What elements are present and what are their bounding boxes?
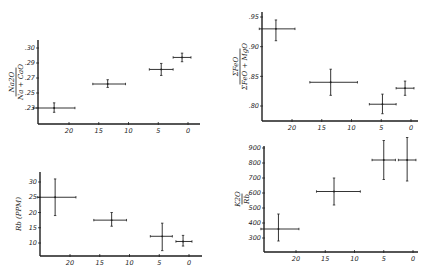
y-tick-label: 15 bbox=[29, 224, 37, 232]
data-point bbox=[259, 20, 295, 41]
y-tick-label: 20 bbox=[29, 209, 37, 217]
y-tick-label: .29 bbox=[25, 59, 35, 67]
x-tick-label: 0 bbox=[187, 259, 191, 267]
y-tick-label: .90 bbox=[249, 43, 259, 51]
chart-rb-ppm: 201510503025201510Rb (PPM) bbox=[15, 172, 202, 267]
data-point bbox=[94, 213, 127, 227]
svg-text:ΣFeO: ΣFeO bbox=[232, 57, 240, 78]
y-axis-label: Rb (PPM) bbox=[15, 197, 23, 232]
y-tick-label: 30 bbox=[29, 178, 37, 186]
data-point bbox=[93, 80, 126, 88]
svg-text:Rb (PPM): Rb (PPM) bbox=[15, 197, 23, 232]
y-tick-label: 700 bbox=[249, 174, 261, 182]
y-tick-label: 25 bbox=[29, 193, 37, 201]
svg-text:K2O: K2O bbox=[234, 191, 242, 208]
data-point bbox=[150, 223, 172, 250]
y-axis-label: Na2ONa + CaO bbox=[8, 64, 25, 101]
chart-feo-ratio: 20151050.95.90.85.80ΣFeOΣFeO + MgO bbox=[232, 12, 418, 132]
y-tick-label: 400 bbox=[249, 219, 261, 227]
data-point bbox=[176, 235, 192, 246]
x-tick-label: 10 bbox=[350, 255, 358, 263]
x-tick-label: 10 bbox=[125, 259, 133, 267]
data-point bbox=[33, 103, 75, 112]
chart-k2o-rb: 20151050900800700600500400300K2ORb bbox=[234, 138, 418, 264]
svg-text:Na + CaO: Na + CaO bbox=[17, 64, 25, 101]
x-tick-label: 0 bbox=[411, 255, 415, 263]
data-point bbox=[398, 138, 416, 182]
figure-four-panel: 20151050.30.29.27.25.23Na2ONa + CaO20151… bbox=[0, 0, 424, 272]
x-tick-label: 20 bbox=[288, 124, 296, 132]
x-tick-label: 20 bbox=[65, 127, 73, 135]
y-tick-label: .30 bbox=[25, 44, 35, 52]
data-point bbox=[396, 81, 414, 95]
x-tick-label: 20 bbox=[66, 259, 74, 267]
x-tick-label: 0 bbox=[186, 127, 190, 135]
svg-text:Rb: Rb bbox=[243, 194, 251, 205]
y-tick-label: 300 bbox=[249, 234, 261, 242]
chart-na2o-ratio: 20151050.30.29.27.25.23Na2ONa + CaO bbox=[8, 40, 200, 135]
svg-text:ΣFeO + MgO: ΣFeO + MgO bbox=[241, 43, 249, 91]
data-point bbox=[310, 69, 358, 95]
y-tick-label: 900 bbox=[249, 144, 261, 152]
data-point bbox=[37, 179, 76, 216]
data-point bbox=[149, 63, 173, 75]
y-tick-label: 500 bbox=[249, 204, 261, 212]
x-tick-label: 10 bbox=[347, 124, 355, 132]
y-tick-label: .85 bbox=[249, 73, 259, 81]
x-tick-label: 5 bbox=[156, 127, 160, 135]
x-tick-label: 0 bbox=[409, 124, 413, 132]
x-tick-label: 5 bbox=[379, 124, 383, 132]
x-tick-label: 15 bbox=[318, 124, 326, 132]
y-axis-label: ΣFeOΣFeO + MgO bbox=[232, 43, 249, 91]
y-tick-label: 800 bbox=[249, 159, 261, 167]
y-tick-label: 10 bbox=[29, 239, 37, 247]
data-point bbox=[372, 141, 395, 180]
svg-text:Na2O: Na2O bbox=[8, 71, 16, 93]
y-tick-label: .25 bbox=[25, 89, 35, 97]
x-tick-label: 5 bbox=[382, 255, 386, 263]
data-point bbox=[261, 214, 299, 241]
data-point bbox=[316, 178, 360, 205]
y-tick-label: .27 bbox=[25, 74, 36, 82]
x-tick-label: 15 bbox=[96, 259, 104, 267]
x-tick-label: 20 bbox=[292, 255, 300, 263]
data-point bbox=[369, 94, 396, 114]
y-tick-label: .80 bbox=[249, 102, 259, 110]
x-tick-label: 15 bbox=[321, 255, 329, 263]
x-tick-label: 5 bbox=[157, 259, 161, 267]
data-point bbox=[173, 53, 191, 62]
x-tick-label: 10 bbox=[124, 127, 132, 135]
y-tick-label: .95 bbox=[249, 13, 259, 21]
x-tick-label: 15 bbox=[95, 127, 103, 135]
